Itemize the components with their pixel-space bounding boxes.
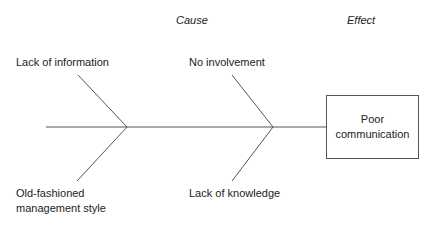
effect-line1: Poor: [336, 112, 410, 127]
effect-box: Poor communication: [326, 95, 419, 159]
effect-header: Effect: [347, 14, 375, 26]
bone-bottom-left: [77, 127, 127, 181]
cause-lack-of-knowledge: Lack of knowledge: [189, 186, 280, 201]
cause-no-involvement: No involvement: [189, 55, 265, 70]
cause-label-line2: management style: [16, 201, 106, 216]
bone-bottom-right: [232, 127, 273, 181]
cause-lack-of-information: Lack of information: [16, 55, 109, 70]
bone-top-left: [78, 75, 127, 127]
bone-top-right: [232, 75, 273, 127]
cause-header: Cause: [176, 14, 208, 26]
cause-old-fashioned-management: Old-fashioned management style: [16, 186, 106, 216]
cause-label-line1: Old-fashioned: [16, 186, 106, 201]
effect-line2: communication: [336, 127, 410, 142]
